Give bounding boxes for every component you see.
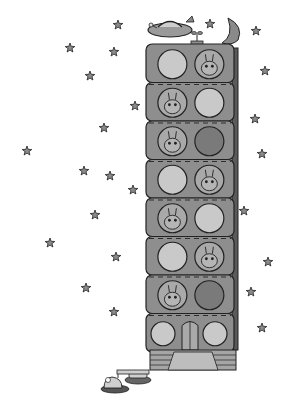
tower-floor	[146, 83, 234, 122]
star-icon	[263, 257, 273, 266]
star-icon	[45, 238, 55, 247]
star-icon	[111, 252, 121, 261]
tower-floor	[146, 237, 234, 276]
periscope-creature-icon	[101, 370, 151, 393]
star-icon	[65, 43, 75, 52]
star-icon	[90, 210, 100, 219]
tower-floor	[146, 275, 234, 314]
star-icon	[246, 287, 256, 296]
star-icon	[257, 149, 267, 158]
window-dark-empty	[195, 281, 224, 310]
window-empty	[158, 165, 187, 194]
star-icon	[250, 114, 260, 123]
window-empty	[158, 50, 187, 79]
star-icon	[205, 19, 215, 28]
star-icon	[105, 171, 115, 180]
tower-floor	[146, 121, 234, 160]
crescent-moon-icon	[222, 18, 240, 44]
star-icon	[130, 101, 140, 110]
ufo-icon	[148, 16, 194, 37]
star-icon	[85, 71, 95, 80]
tower-floor	[146, 314, 234, 353]
window-empty	[158, 242, 187, 271]
tower-floor	[146, 160, 234, 199]
window-empty	[151, 322, 175, 346]
star-icon	[251, 26, 261, 35]
star-icon	[239, 206, 249, 215]
star-icon	[257, 323, 267, 332]
star-icon	[113, 20, 123, 29]
tower-floor	[146, 44, 234, 83]
star-icon	[99, 123, 109, 132]
space-tower-illustration	[0, 0, 287, 402]
star-icon	[109, 47, 119, 56]
illustration-canvas	[0, 0, 287, 402]
tower-floor	[146, 198, 234, 237]
star-icon	[260, 66, 270, 75]
star-icon	[128, 185, 138, 194]
window-dark-empty	[195, 127, 224, 156]
star-icon	[109, 307, 119, 316]
apartment-tower	[146, 44, 238, 352]
window-empty	[195, 88, 224, 117]
star-icon	[81, 283, 91, 292]
window-empty	[195, 204, 224, 233]
window-empty	[203, 322, 227, 346]
star-icon	[22, 146, 32, 155]
tower-foundation	[150, 350, 236, 370]
star-icon	[79, 166, 89, 175]
